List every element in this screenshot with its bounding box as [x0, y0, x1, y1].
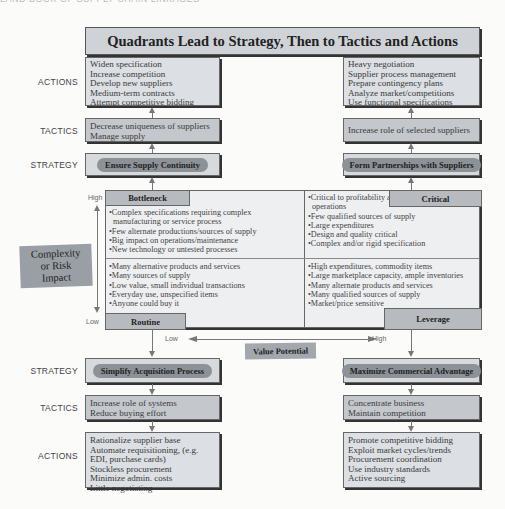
matrix-vertical-divider: [304, 191, 305, 327]
quadrant-item: •Anyone could buy it: [109, 299, 245, 308]
quadrant-item: •Many qualified sources of supply: [308, 290, 463, 299]
quadrant-item: •Large expenditures: [308, 221, 425, 230]
y-axis-high-label: High: [88, 194, 102, 201]
top-right-tactics-box: Increase role of selected suppliers: [343, 118, 480, 142]
quadrant-bottleneck: •Complex specifications requiring comple…: [109, 208, 256, 254]
quadrant-label-critical: Critical: [389, 190, 482, 207]
x-axis-title-tag: Value Potential: [245, 342, 316, 359]
arrow-line: [411, 329, 412, 353]
row-label-strategy-bottom: STRATEGY: [8, 366, 78, 376]
arrow-up-icon: [408, 177, 414, 183]
top-left-tactics-box: Decrease uniqueness of suppliers Manage …: [85, 118, 220, 142]
y-axis-line: [97, 210, 98, 308]
top-left-actions-box: Widen specification Increase competition…: [85, 57, 220, 106]
quadrant-item: •Few qualified sources of supply: [308, 212, 425, 221]
strategy-label: Form Partnerships with Suppliers: [342, 158, 482, 172]
quadrant-item: •Everyday use, unspecified items: [109, 290, 245, 299]
bottom-right-tactics-box: Concentrate business Maintain competitio…: [343, 395, 480, 420]
arrow-line: [152, 329, 153, 353]
y-axis-low-label: Low: [86, 318, 99, 325]
row-label-strategy-top: STRATEGY: [8, 160, 78, 170]
tactic-item: Maintain competition: [348, 409, 475, 419]
quadrant-item: •Many alternate products and services: [308, 281, 463, 290]
arrow-down-icon: [149, 351, 155, 357]
quadrant-item: •Complex specifications requiring comple…: [109, 208, 256, 217]
y-axis-arrow-down-icon: [94, 307, 100, 313]
arrow-up-icon: [408, 143, 414, 149]
tactic-item: Manage supply: [90, 132, 215, 142]
diagram-title: Quadrants Lead to Strategy, Then to Tact…: [85, 27, 480, 55]
y-axis-title-line1: Complexity: [25, 247, 85, 261]
x-axis-low-label: Low: [165, 335, 178, 342]
quadrant-item: •Many alternative products and services: [109, 262, 245, 271]
quadrant-item: •Design and quality critical: [308, 230, 425, 239]
arrow-up-icon: [149, 177, 155, 183]
tactic-item: Reduce buying effort: [90, 409, 215, 419]
quadrant-leverage: •High expenditures, commodity items •Lar…: [308, 262, 463, 308]
quadrant-routine: •Many alternative products and services …: [109, 262, 245, 308]
arrow-up-icon: [149, 143, 155, 149]
row-label-tactics-top: TACTICS: [8, 126, 78, 136]
arrow-up-icon: [408, 107, 414, 113]
quadrant-item: •Large marketplace capacity, ample inven…: [308, 271, 463, 280]
strategy-label: Simplify Acquisition Process: [93, 364, 212, 378]
strategy-label: Ensure Supply Continuity: [97, 158, 208, 172]
bottom-left-strategy-box: Simplify Acquisition Process: [85, 358, 220, 383]
arrow-up-icon: [149, 107, 155, 113]
quadrant-item: •Complex and/or rigid specification: [308, 239, 425, 248]
page-running-header: LAND BOOK OF SUPPLY CHAIN LINKAGES: [0, 0, 200, 4]
quadrant-item: manufacturing or service process: [109, 217, 256, 226]
row-label-actions-bottom: ACTIONS: [8, 451, 78, 461]
x-axis-high-label: High: [372, 335, 386, 342]
strategy-label: Maximize Commercial Advantage: [342, 364, 482, 378]
quadrant-label-bottleneck: Bottleneck: [105, 190, 190, 206]
quadrant-item: •Low value, small individual transaction…: [109, 281, 245, 290]
row-label-tactics-bottom: TACTICS: [8, 403, 78, 413]
quadrant-item: •High expenditures, commodity items: [308, 262, 463, 271]
bottom-right-actions-box: Promote competitive bidding Exploit mark…: [343, 432, 480, 488]
row-label-actions-top: ACTIONS: [8, 77, 78, 87]
top-left-strategy-box: Ensure Supply Continuity: [85, 153, 220, 176]
bottom-right-strategy-box: Maximize Commercial Advantage: [343, 358, 480, 383]
action-item: Little negotiating: [90, 484, 215, 494]
tactic-item: Increase role of selected suppliers: [348, 126, 475, 136]
quadrant-item: •New technology or untested processes: [109, 245, 256, 254]
bottom-left-tactics-box: Increase role of systems Reduce buying e…: [85, 395, 220, 420]
quadrant-item: •Few alternate productions/sources of su…: [109, 227, 256, 236]
bottom-left-actions-box: Rationalize supplier base Automate requi…: [85, 432, 220, 488]
quadrant-label-leverage: Leverage: [384, 308, 482, 330]
quadrant-item: •Big impact on operations/maintenance: [109, 236, 256, 245]
quadrant-item: •Many sources of supply: [109, 271, 245, 280]
x-axis-line: [196, 339, 369, 340]
matrix-horizontal-divider: [106, 258, 479, 259]
y-axis-title-line2: or Risk Impact: [26, 259, 87, 285]
quadrant-matrix: Bottleneck •Complex specifications requi…: [105, 190, 480, 328]
action-item: Active sourcing: [348, 474, 475, 484]
top-right-strategy-box: Form Partnerships with Suppliers: [343, 153, 480, 176]
quadrant-label-routine: Routine: [105, 313, 186, 330]
top-right-actions-box: Heavy negotiation Supplier process manag…: [343, 57, 480, 106]
arrow-down-icon: [408, 351, 414, 357]
y-axis-title-tag: Complexity or Risk Impact: [19, 244, 92, 288]
